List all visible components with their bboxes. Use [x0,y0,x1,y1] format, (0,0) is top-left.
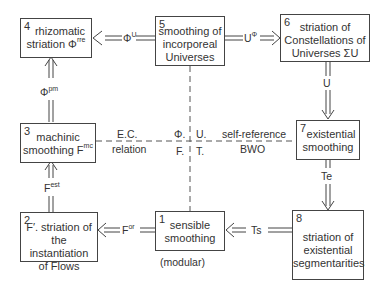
node-number: 8 [296,212,302,225]
node-1-caption: (modular) [160,256,205,268]
node-label-line3: segmentarities [293,257,363,270]
node-label-line2: existential [293,244,363,257]
edge-label-1-2: For [122,224,135,236]
node-5-smoothing-incorporeal-universes: 5 smoothing of incorporeal Universes [155,16,225,66]
node-label-line2: incorporeal [156,38,224,51]
relation-relation-label: relation [112,143,146,155]
edge-label-7-8: Te [321,170,332,182]
node-label-line3: Universes [156,51,224,64]
node-4-rhizomatic-striation: 4 rhizomatic striation Φrre [20,18,92,58]
relation-ec-label: E.C. [117,128,137,140]
edge-7-to-8 [322,160,334,210]
node-label-line1: F′. striation of [21,221,97,234]
node-label-line1: striation of [281,21,369,34]
node-label-line2: smoothing [156,232,224,245]
edge-label-2-3: Fest [44,182,60,194]
node-7-existential-smoothing: 7 existential smoothing [296,120,360,160]
node-number: 5 [159,18,165,31]
node-label-line1: striation of [293,231,363,244]
node-6-striation-constellations: 6 striation of Constellations of Univers… [280,14,370,62]
node-2-striation-instantiation-flows: 2 F′. striation of the instantiation of … [20,212,98,262]
node-number: 1 [159,213,165,226]
node-1-sensible-smoothing: 1 sensible smoothing [155,211,225,251]
node-label-line2: the instantiation [21,234,97,260]
relation-self-reference-label: self-reference [222,128,286,140]
node-label-line3: Universes ΣU [281,47,369,60]
quadrant-phi: Φ. [174,128,185,140]
node-3-machinic-smoothing: 3 machinic smoothing Fmc [20,123,96,163]
quadrant-u: U. [196,128,207,140]
node-label-line1: existential [297,128,359,141]
edge-label-5-4: ΦU [123,32,136,44]
node-label-line2: smoothing Fmc [21,144,95,157]
edge-label-8-1: Ts [251,224,262,236]
node-label-line2: Constellations of [281,34,369,47]
node-number: 2 [24,214,30,227]
edge-6-to-7 [322,62,334,119]
quadrant-f: F. [176,145,184,157]
node-label-line3: of Flows [21,260,97,273]
node-number: 7 [300,122,306,135]
edge-label-6-7: U [323,77,331,89]
node-number: 6 [284,16,290,29]
node-label-line1: sensible [156,219,224,232]
quadrant-t: T. [196,145,204,157]
edge-label-3-4: Φpm [40,86,58,98]
node-label-line2: striation Φrre [21,38,91,51]
node-label-line1: smoothing of [156,25,224,38]
edge-label-5-6: UΦ [244,32,257,44]
node-8-striation-existential-segmentarities: 8 striation of existential segmentaritie… [292,210,364,280]
relation-bwo-label: BWO [240,143,265,155]
node-number: 3 [24,125,30,138]
node-label-line2: smoothing [297,141,359,154]
node-number: 4 [24,20,30,33]
